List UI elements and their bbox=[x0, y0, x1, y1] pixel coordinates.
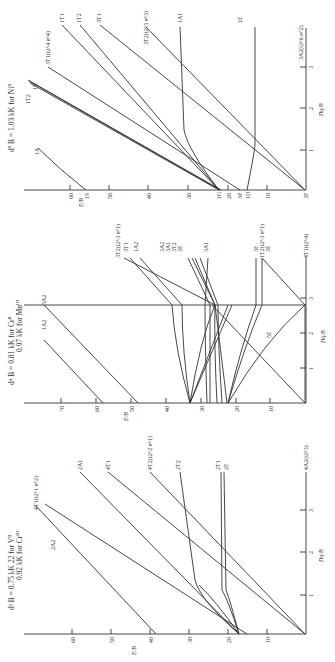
tick-label: 10 bbox=[265, 637, 271, 643]
curve-label: 3E bbox=[177, 245, 183, 252]
axis-label-e: E/B bbox=[131, 646, 137, 656]
curve-label: 3A1 bbox=[203, 242, 209, 252]
labels-d8: d8 B = 1.03 kK for NiII E/B Dq/B 60 50 4… bbox=[7, 11, 324, 208]
tick-label: 1 bbox=[308, 594, 314, 597]
curve-label: 1E bbox=[32, 83, 38, 90]
tick-label: 40 bbox=[148, 637, 154, 643]
tick-label: 2 bbox=[308, 107, 314, 110]
curve-label: 3E bbox=[265, 245, 271, 252]
term-label: 1S bbox=[84, 193, 90, 199]
term-label: 3P bbox=[237, 192, 243, 199]
tick-label: 20 bbox=[226, 193, 232, 199]
dq-ticks bbox=[300, 67, 306, 150]
term-label: 1D bbox=[245, 191, 251, 199]
curve-label: 2T1 bbox=[215, 460, 221, 470]
tick-label: 3 bbox=[308, 297, 314, 300]
panel-d8 bbox=[24, 25, 306, 190]
curve-label: 4T1 bbox=[105, 460, 111, 470]
curve-label: 2T2 bbox=[175, 460, 181, 470]
curve-label: 4T1(t2^1 e^2) bbox=[33, 476, 40, 510]
curve-label: 3A2(t2^6 e^2) bbox=[298, 25, 305, 60]
tick-label: 20 bbox=[226, 637, 232, 643]
curve-label: 1E bbox=[237, 16, 243, 23]
curve-label: 4A2(t2^3) bbox=[303, 445, 310, 470]
tanabe-sugano-figure: d8 B = 1.03 kK for NiII E/B Dq/B 60 50 4… bbox=[0, 0, 335, 662]
curve-label: 1T2 bbox=[76, 13, 82, 23]
term-label: 3F bbox=[303, 192, 309, 199]
panel-d4 bbox=[24, 256, 306, 403]
curve-label: 1T1 bbox=[59, 13, 65, 23]
tick-label: 3 bbox=[308, 66, 314, 69]
curve-label: 3A2 bbox=[41, 295, 47, 305]
tick-label: 1 bbox=[308, 149, 314, 152]
axis-label-e: E/B bbox=[123, 412, 129, 422]
curve-label: 1A1 bbox=[177, 13, 183, 23]
curve-label: 2A2 bbox=[50, 540, 56, 550]
tick-label: 2 bbox=[308, 551, 314, 554]
curve-label: 5E bbox=[266, 331, 272, 338]
curve-label: 2E bbox=[223, 463, 229, 470]
term-label: 1G bbox=[216, 191, 222, 199]
curve-label: 2A1 bbox=[77, 460, 83, 470]
tick-label: 40 bbox=[164, 406, 170, 412]
tick-label: 30 bbox=[199, 406, 205, 412]
curve-label: 1T2 bbox=[25, 94, 31, 104]
tick-label: 1 bbox=[308, 367, 314, 370]
curves-d3 bbox=[36, 472, 305, 634]
tick-label: 50 bbox=[107, 193, 113, 199]
tick-label: 10 bbox=[268, 406, 274, 412]
axis-label-dq: Dq/B bbox=[320, 330, 326, 344]
curves-d4 bbox=[44, 258, 305, 403]
labels-d3: d³ B = 0.75 kK 22 for VII 0.92 kK for Cr… bbox=[7, 436, 324, 656]
curve-label: 3T1(t2^4) bbox=[303, 234, 310, 258]
curve-label: 4T2(t2^2 e^1) bbox=[147, 436, 154, 470]
panel-title-d3-line2: 0.92 kK for CrIII bbox=[15, 530, 24, 580]
tick-label: 30 bbox=[187, 637, 193, 643]
tick-label: 50 bbox=[129, 406, 135, 412]
curve-label: 1A2 bbox=[133, 242, 139, 252]
e-ticks bbox=[61, 398, 270, 403]
tick-label: 60 bbox=[94, 406, 100, 412]
tick-label: 20 bbox=[234, 406, 240, 412]
tick-label: 10 bbox=[265, 193, 271, 199]
curve-label: 3T2(t2^3 e^1) bbox=[115, 224, 122, 258]
curve-label: 3T1 bbox=[123, 242, 129, 252]
tick-label: 3 bbox=[308, 509, 314, 512]
tick-label: 40 bbox=[146, 193, 152, 199]
curve-label: 3T1(t2^4 e^4) bbox=[45, 31, 52, 65]
curve-label: 3T2(t2^5 e^3) bbox=[143, 11, 150, 45]
curves-d8 bbox=[28, 25, 305, 190]
panel-title-d4-line2: 0.97 kK for MnIII bbox=[15, 300, 24, 352]
tick-label: 30 bbox=[186, 193, 192, 199]
tick-label: 60 bbox=[70, 637, 76, 643]
axis-label-dq: Dq/B bbox=[318, 549, 324, 563]
axis-label-dq: Dq/B bbox=[318, 103, 324, 117]
dq-ticks bbox=[300, 510, 306, 595]
tick-label: 70 bbox=[59, 406, 65, 412]
labels-d4: d⁴ B = 0.81 kK for CrII 0.97 kK for MnII… bbox=[7, 224, 326, 422]
tick-label: 2 bbox=[308, 332, 314, 335]
curve-label: 1A2 bbox=[41, 320, 47, 330]
panel-d3 bbox=[24, 472, 306, 634]
e-ticks bbox=[70, 185, 267, 190]
curve-label: 1A bbox=[34, 147, 40, 155]
panel-title-d8: d8 B = 1.03 kK for NiII bbox=[7, 83, 16, 152]
curve-label: 3T1 bbox=[96, 13, 102, 23]
tick-label: 60 bbox=[68, 193, 74, 199]
tick-label: 50 bbox=[109, 637, 115, 643]
